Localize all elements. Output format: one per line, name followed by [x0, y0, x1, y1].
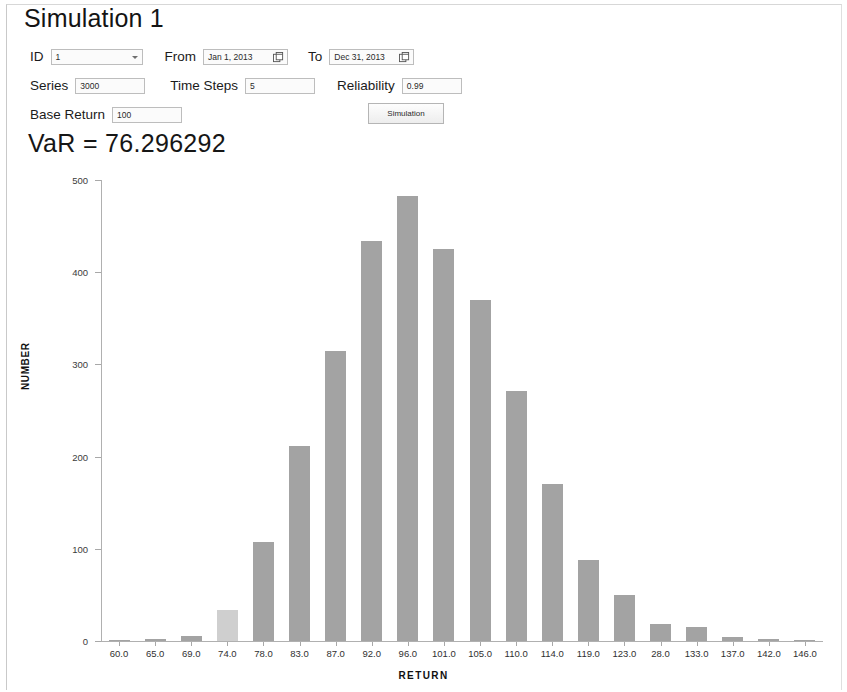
field-base-return: Base Return 100: [30, 107, 182, 123]
bar[interactable]: [722, 637, 743, 641]
series-input[interactable]: 3000: [75, 78, 145, 94]
x-axis-tick: [263, 642, 264, 646]
to-date-input[interactable]: Dec 31, 2013: [329, 49, 414, 65]
from-label: From: [165, 49, 197, 64]
bar[interactable]: [470, 300, 491, 641]
bar-slot: [534, 180, 570, 641]
x-axis-tick: [119, 642, 120, 646]
reliability-label: Reliability: [337, 78, 395, 93]
x-axis-tick: [300, 642, 301, 646]
bar[interactable]: [794, 640, 815, 641]
field-to: To Dec 31, 2013: [308, 49, 414, 65]
bar-slot: [679, 180, 715, 641]
x-axis-tick: [155, 642, 156, 646]
x-axis-title: RETURN: [0, 670, 847, 681]
id-value: 1: [56, 50, 61, 64]
bar[interactable]: [289, 446, 310, 641]
bar-slot: [426, 180, 462, 641]
field-reliability: Reliability 0.99: [337, 78, 462, 94]
calendar-icon[interactable]: [399, 52, 410, 63]
y-axis-tick-label: 400: [48, 267, 88, 278]
bar-slot: [570, 180, 606, 641]
from-date-input[interactable]: Jan 1, 2013: [203, 49, 288, 65]
bar-slot: [101, 180, 137, 641]
calendar-icon[interactable]: [273, 52, 284, 63]
series-value: 3000: [80, 79, 99, 93]
reliability-value: 0.99: [407, 79, 424, 93]
x-axis-tick: [769, 642, 770, 646]
y-axis-tick: [95, 641, 101, 642]
x-axis-tick: [516, 642, 517, 646]
bar[interactable]: [109, 640, 130, 641]
field-series: Series 3000: [30, 78, 145, 94]
bar[interactable]: [217, 610, 238, 641]
field-id: ID 1: [30, 49, 143, 65]
bar-series: [101, 180, 823, 641]
from-value: Jan 1, 2013: [208, 50, 252, 64]
bar-slot: [715, 180, 751, 641]
histogram-chart: NUMBER 0100200300400500 60.065.069.074.0…: [0, 168, 847, 692]
bar[interactable]: [542, 484, 563, 641]
bar[interactable]: [325, 351, 346, 641]
id-label: ID: [30, 49, 44, 64]
y-axis-tick: [95, 272, 101, 273]
bar[interactable]: [145, 639, 166, 641]
reliability-input[interactable]: 0.99: [402, 78, 462, 94]
to-label: To: [308, 49, 322, 64]
bar-slot: [787, 180, 823, 641]
base-return-value: 100: [117, 108, 131, 122]
y-axis-tick-label: 500: [48, 175, 88, 186]
bar-slot: [643, 180, 679, 641]
bar[interactable]: [181, 636, 202, 641]
y-axis-tick: [95, 364, 101, 365]
form-row-2: Series 3000 Time Steps 5 Reliability 0.9…: [30, 73, 460, 98]
y-axis-tick-label: 300: [48, 359, 88, 370]
bar[interactable]: [506, 391, 527, 641]
simulation-button[interactable]: Simulation: [368, 103, 444, 124]
bar[interactable]: [397, 196, 418, 641]
bar[interactable]: [578, 560, 599, 641]
bar[interactable]: [361, 241, 382, 641]
bar[interactable]: [614, 595, 635, 641]
time-steps-input[interactable]: 5: [245, 78, 315, 94]
x-axis-tick: [408, 642, 409, 646]
series-label: Series: [30, 78, 68, 93]
to-value: Dec 31, 2013: [334, 50, 385, 64]
bar-slot: [318, 180, 354, 641]
field-from: From Jan 1, 2013: [165, 49, 289, 65]
bar-slot: [354, 180, 390, 641]
bar[interactable]: [253, 542, 274, 641]
form-row-1: ID 1 From Jan 1, 2013 To: [30, 44, 460, 69]
bar[interactable]: [758, 639, 779, 641]
y-axis-tick-label: 200: [48, 451, 88, 462]
x-axis-tick: [336, 642, 337, 646]
x-axis-tick: [480, 642, 481, 646]
x-axis-tick: [191, 642, 192, 646]
base-return-label: Base Return: [30, 107, 105, 122]
y-axis-tick: [95, 549, 101, 550]
y-axis-title: NUMBER: [20, 343, 31, 391]
bar[interactable]: [433, 249, 454, 641]
bar-slot: [498, 180, 534, 641]
base-return-input[interactable]: 100: [112, 107, 182, 123]
bar-slot: [606, 180, 642, 641]
bar[interactable]: [686, 627, 707, 641]
var-result: VaR = 76.296292: [28, 129, 226, 158]
simulation-window: Simulation 1 ID 1 From Jan 1, 2013: [0, 0, 847, 692]
y-axis-tick-label: 100: [48, 543, 88, 554]
id-select[interactable]: 1: [51, 49, 143, 65]
x-axis-tick: [227, 642, 228, 646]
bar-slot: [209, 180, 245, 641]
x-axis-tick: [552, 642, 553, 646]
page-title: Simulation 1: [24, 4, 164, 33]
x-axis-tick: [444, 642, 445, 646]
bar-slot: [137, 180, 173, 641]
chevron-down-icon: [132, 56, 138, 59]
time-steps-label: Time Steps: [170, 78, 238, 93]
y-axis-tick: [95, 180, 101, 181]
bar[interactable]: [650, 624, 671, 641]
bar-slot: [245, 180, 281, 641]
bar-slot: [390, 180, 426, 641]
bar-slot: [282, 180, 318, 641]
time-steps-value: 5: [250, 79, 255, 93]
